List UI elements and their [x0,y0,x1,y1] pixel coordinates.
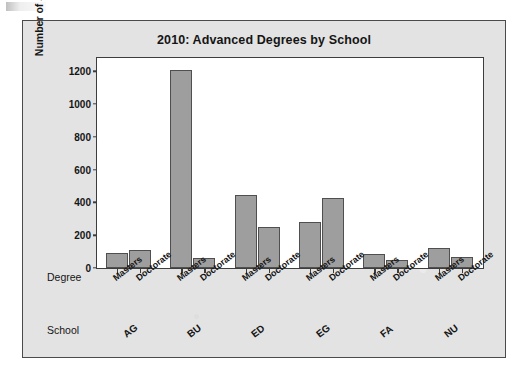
y-tick-mark [93,103,97,104]
bar-bu-masters [170,70,192,268]
school-tick-label: EG [314,322,332,340]
y-tick-label: 0 [85,263,91,274]
y-tick-label: 1200 [69,66,91,77]
y-tick-mark [93,234,97,235]
school-tick-label: ED [249,322,267,339]
bar-ed-masters [235,195,257,268]
school-tick-label: AG [121,322,140,340]
chart-figure-frame: 2010: Advanced Degrees by School Number … [22,20,506,358]
degree-axis-row-title: Degree [47,271,81,283]
y-tick-label: 600 [74,164,91,175]
bar-eg-masters [299,222,321,268]
y-tick-mark [93,169,97,170]
y-tick-mark [93,70,97,71]
plot-area: 020040060080010001200 [96,57,484,269]
y-tick-mark [93,136,97,137]
y-tick-label: 800 [74,131,91,142]
x-axis-labels-layer: MastersDoctorateAGMastersDoctorateBUMast… [96,269,484,365]
y-tick-label: 1000 [69,98,91,109]
y-tick-mark [93,202,97,203]
y-axis-title: Number of Students [33,0,45,81]
school-axis-row-title: School [47,324,79,336]
school-tick-label: NU [442,322,460,340]
y-tick-label: 400 [74,197,91,208]
school-tick-label: FA [378,323,395,340]
school-tick-label: BU [185,322,203,340]
y-tick-label: 200 [74,230,91,241]
chart-title: 2010: Advanced Degrees by School [23,33,505,47]
